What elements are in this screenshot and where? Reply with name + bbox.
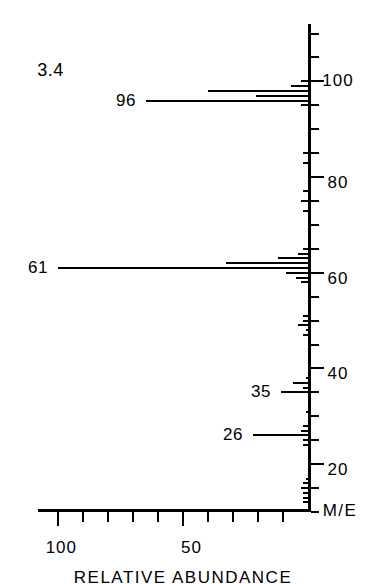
spectrum-peak [303,190,308,192]
mz-tick [311,511,319,513]
spectrum-peak [146,100,309,102]
spectrum-peak [286,272,309,274]
spectrum-peak [301,200,309,202]
mz-tick [311,415,319,417]
spectrum-peak [306,377,309,379]
mz-tick [311,463,324,465]
mz-tick-label: 60 [328,268,349,288]
spectrum-peak [303,210,308,212]
spectrum-peak [303,162,308,164]
peak-label: 26 [217,425,249,445]
mz-tick [311,104,319,106]
spectrum-peak [278,257,308,259]
mz-tick [311,128,319,130]
intensity-axis-title: RELATIVE ABUNDANCE [53,568,313,584]
spectrum-peak [303,248,308,250]
spectrum-peak [253,434,308,436]
mz-tick-label: 40 [328,364,349,384]
spectrum-plot-area: 20406080100M/E50100RELATIVE ABUNDANCE263… [0,0,388,584]
spectrum-peak [208,90,308,92]
rotated-plot-stage: 20406080100M/E50100RELATIVE ABUNDANCE263… [0,0,388,584]
mz-tick [311,57,319,59]
spectrum-peak [303,492,308,494]
spectrum-peak [298,253,308,255]
intensity-tick [82,512,84,522]
intensity-tick [207,512,209,522]
mz-tick [311,152,319,154]
mz-tick [311,320,319,322]
spectrum-peak [301,80,309,82]
spectrum-peak [303,497,308,499]
intensity-tick [107,512,109,522]
mass-spectrum-figure: 20406080100M/E50100RELATIVE ABUNDANCE263… [0,0,388,584]
intensity-axis-line [38,509,311,512]
spectrum-peak [256,95,309,97]
intensity-tick [232,512,234,522]
mz-tick [311,367,324,369]
mz-tick [311,224,319,226]
intensity-tick-label: 100 [37,538,77,558]
spectrum-peak [303,334,308,336]
intensity-tick [57,512,59,526]
spectrum-peak [303,444,308,446]
intensity-tick [282,512,284,522]
mz-tick-label: 80 [328,173,349,193]
mz-tick [311,272,324,274]
intensity-tick [132,512,134,522]
figure-annotation: 3.4 [37,60,64,81]
spectrum-peak [306,411,309,413]
spectrum-peak [58,267,308,269]
spectrum-peak [281,391,309,393]
spectrum-peak [301,430,309,432]
intensity-tick-label: 50 [162,538,202,558]
mz-tick-label: 20 [328,460,349,480]
peak-label: 35 [245,382,277,402]
peak-label: 61 [22,258,54,278]
spectrum-peak [291,85,309,87]
intensity-tick [157,512,159,522]
mz-axis-title: M/E [323,501,358,521]
mz-tick [311,391,319,393]
spectrum-peak [303,425,308,427]
mz-tick [311,200,319,202]
intensity-tick [257,512,259,522]
spectrum-peak [301,487,309,489]
spectrum-peak [296,277,309,279]
spectrum-peak [303,320,308,322]
spectrum-peak [301,104,309,106]
mz-tick [311,296,319,298]
spectrum-peak [306,329,309,331]
spectrum-peak [293,382,308,384]
spectrum-peak [306,478,309,480]
spectrum-peak [303,501,308,503]
intensity-tick [182,512,184,526]
spectrum-peak [303,387,308,389]
mz-tick [311,33,319,35]
mz-tick-label: 100 [322,72,353,92]
spectrum-peak [303,439,308,441]
mz-tick [311,487,319,489]
spectrum-peak [303,482,308,484]
spectrum-peak [226,262,309,264]
mz-tick [311,439,319,441]
mz-tick [311,176,324,178]
mz-tick [311,248,319,250]
spectrum-peak [303,152,308,154]
spectrum-peak [301,281,309,283]
peak-label: 96 [110,91,142,111]
spectrum-peak [298,324,308,326]
mz-tick [311,344,319,346]
spectrum-peak [303,315,308,317]
